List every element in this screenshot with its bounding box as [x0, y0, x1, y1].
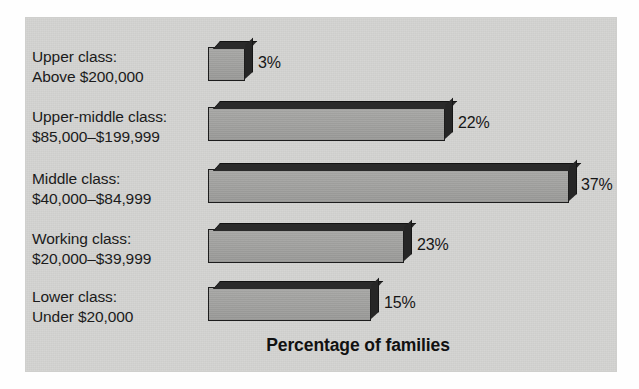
chart-page: Upper class: Above $200,000 3% Upper-mid…	[0, 0, 639, 389]
category-label-line2: $85,000–$199,999	[32, 127, 212, 147]
bar-shape	[208, 169, 569, 203]
bar-row: Middle class: $40,000–$84,999 37%	[25, 169, 617, 227]
category-label-line2: Under $20,000	[32, 307, 212, 327]
category-label-line1: Upper-middle class:	[32, 107, 212, 127]
bar-value-label: 22%	[458, 112, 489, 134]
bar-shape	[208, 229, 404, 263]
bar-shape	[208, 287, 371, 321]
bar-row: Working class: $20,000–$39,999 23%	[25, 229, 617, 287]
category-label-line1: Upper class:	[32, 47, 212, 67]
chart-panel: Upper class: Above $200,000 3% Upper-mid…	[25, 17, 617, 372]
category-label: Lower class: Under $20,000	[32, 287, 212, 326]
bar-value-label: 37%	[581, 174, 612, 196]
category-label-line1: Middle class:	[32, 169, 212, 189]
bar-value-label: 3%	[258, 52, 281, 74]
bar-top-bevel	[213, 223, 416, 231]
category-label-line2: Above $200,000	[32, 67, 212, 87]
category-label: Working class: $20,000–$39,999	[32, 229, 212, 268]
bar-shape	[208, 47, 245, 81]
category-label-line2: $20,000–$39,999	[32, 249, 212, 269]
chart-axis-title: Percentage of families	[208, 335, 508, 356]
category-label: Middle class: $40,000–$84,999	[32, 169, 212, 208]
category-label-line2: $40,000–$84,999	[32, 189, 212, 209]
bar-top-bevel	[213, 281, 383, 289]
category-label-line1: Working class:	[32, 229, 212, 249]
bar-value-label: 15%	[384, 292, 415, 314]
bar-row: Upper-middle class: $85,000–$199,999 22%	[25, 107, 617, 165]
category-label: Upper class: Above $200,000	[32, 47, 212, 86]
bar-value-label: 23%	[417, 234, 448, 256]
bar-row: Upper class: Above $200,000 3%	[25, 47, 617, 105]
bar-top-bevel	[213, 163, 581, 171]
bar-shape	[208, 107, 445, 141]
bar-side-shadow	[371, 278, 379, 319]
bar-side-shadow	[245, 38, 253, 79]
category-label: Upper-middle class: $85,000–$199,999	[32, 107, 212, 146]
bar-side-shadow	[569, 160, 577, 201]
bar-side-shadow	[404, 220, 412, 261]
bar-side-shadow	[445, 98, 453, 139]
bar-top-bevel	[213, 101, 457, 109]
category-label-line1: Lower class:	[32, 287, 212, 307]
